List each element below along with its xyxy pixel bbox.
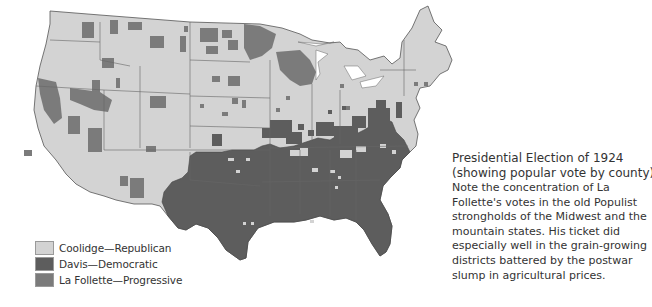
caption-subtitle: (showing popular vote by county)	[452, 166, 652, 181]
legend-item-progressive: La Follette—Progressive	[35, 272, 182, 288]
map-legend: Coolidge—Republican Davis—Democratic La …	[35, 240, 182, 288]
legend-item-republican: Coolidge—Republican	[35, 240, 182, 256]
republican-swatch	[35, 241, 54, 255]
democratic-swatch	[35, 257, 54, 271]
progressive-swatch	[35, 273, 54, 287]
map-caption: Presidential Election of 1924 (showing p…	[452, 151, 652, 283]
legend-label-progressive: La Follette—Progressive	[59, 274, 182, 286]
legend-label-democratic: Davis—Democratic	[59, 258, 158, 270]
caption-title: Presidential Election of 1924	[452, 151, 652, 166]
legend-label-republican: Coolidge—Republican	[59, 242, 171, 254]
caption-description: Note the concentration of La Follette's …	[452, 181, 652, 283]
legend-item-democratic: Davis—Democratic	[35, 256, 182, 272]
